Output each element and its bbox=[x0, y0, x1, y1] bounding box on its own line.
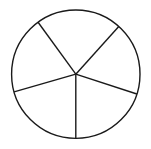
circle-sectors-diagram bbox=[0, 0, 151, 149]
figure-canvas bbox=[0, 0, 151, 149]
radius-left bbox=[14, 74, 76, 92]
radius-upper-left bbox=[38, 22, 76, 74]
radius-right bbox=[76, 74, 137, 94]
radius-upper-right bbox=[76, 26, 119, 74]
